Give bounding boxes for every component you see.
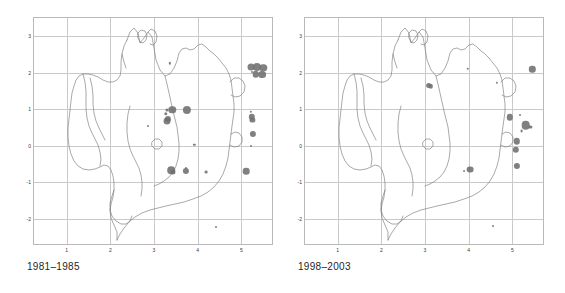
data-point (164, 118, 171, 125)
data-point (513, 147, 519, 153)
data-point (519, 114, 521, 116)
data-point (169, 62, 171, 64)
y-tick-label-minus2: -2 (27, 216, 31, 221)
gridline-y-3 (305, 36, 543, 37)
x-tick-label-1: 1 (336, 248, 339, 253)
gridline-x-3 (425, 18, 426, 244)
data-point (513, 138, 519, 144)
data-point (529, 66, 535, 72)
x-tick-label-3: 3 (424, 248, 427, 253)
panel-caption-right: 1998–2003 (298, 261, 351, 272)
x-tick-label-4: 4 (196, 248, 199, 253)
gridline-x-1 (67, 18, 68, 244)
data-point (250, 131, 256, 137)
gridline-y-0 (305, 146, 543, 147)
y-tick-label-minus1: -1 (27, 180, 31, 185)
y-tick-label-1: 1 (299, 107, 302, 112)
y-tick-label-2: 2 (28, 70, 31, 75)
data-point (243, 168, 250, 175)
x-tick-label-1: 1 (65, 248, 68, 253)
gridline-y-1 (34, 109, 272, 110)
data-point (463, 170, 465, 172)
data-point (215, 226, 217, 228)
gridline-x-2 (381, 18, 382, 244)
data-point (183, 168, 189, 174)
figure-container: 3 2 1 0 -1 -2 1 2 3 4 5 (0, 0, 565, 293)
data-point (466, 68, 469, 71)
gridline-x-4 (198, 18, 199, 244)
data-point (251, 71, 253, 73)
gridline-x-3 (154, 18, 155, 244)
gridline-x-1 (338, 18, 339, 244)
data-point (164, 112, 167, 115)
data-point (496, 82, 498, 84)
y-tick-label-minus2: -2 (298, 216, 302, 221)
data-point (183, 106, 191, 114)
y-tick-label-1: 1 (28, 107, 31, 112)
gridline-y-0 (34, 146, 272, 147)
gridline-y-minus1 (34, 182, 272, 183)
y-tick-label-0: 0 (28, 143, 31, 148)
data-point (168, 106, 175, 113)
plot-area-left: 3 2 1 0 -1 -2 1 2 3 4 5 (33, 17, 273, 245)
y-tick-label-3: 3 (28, 34, 31, 39)
x-tick-label-3: 3 (153, 248, 156, 253)
y-tick-label-0: 0 (299, 143, 302, 148)
data-point (170, 169, 175, 174)
gridline-y-3 (34, 36, 272, 37)
data-point (520, 129, 523, 132)
gridline-y-minus2 (34, 219, 272, 220)
data-point (147, 125, 149, 127)
data-point (492, 225, 494, 227)
data-point (258, 71, 266, 79)
data-point (466, 166, 473, 173)
gridline-y-2 (34, 73, 272, 74)
gridline-x-4 (469, 18, 470, 244)
x-tick-label-5: 5 (240, 248, 243, 253)
y-tick-label-minus1: -1 (298, 180, 302, 185)
gridline-x-5 (512, 18, 513, 244)
data-point (250, 117, 255, 122)
data-point (204, 170, 207, 173)
x-tick-label-4: 4 (467, 248, 470, 253)
gridline-y-1 (305, 109, 543, 110)
y-tick-label-3: 3 (299, 34, 302, 39)
panel-1998-2003: 3 2 1 0 -1 -2 1 2 3 4 5 (282, 0, 564, 293)
y-tick-label-2: 2 (299, 70, 302, 75)
data-point (529, 126, 532, 129)
data-point (514, 163, 520, 169)
panel-1981-1985: 3 2 1 0 -1 -2 1 2 3 4 5 (0, 0, 282, 293)
gridline-x-2 (110, 18, 111, 244)
gridline-y-minus1 (305, 182, 543, 183)
gridline-y-2 (305, 73, 543, 74)
data-point (429, 84, 433, 88)
gridline-y-minus2 (305, 219, 543, 220)
x-tick-label-2: 2 (380, 248, 383, 253)
data-point (250, 145, 252, 147)
plot-area-right: 3 2 1 0 -1 -2 1 2 3 4 5 (304, 17, 544, 245)
x-tick-label-2: 2 (109, 248, 112, 253)
panel-caption-left: 1981–1985 (27, 261, 80, 272)
gridline-x-5 (241, 18, 242, 244)
x-tick-label-5: 5 (511, 248, 514, 253)
